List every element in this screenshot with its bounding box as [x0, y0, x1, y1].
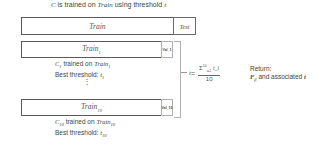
fold-10-val-label: Val_10: [162, 106, 173, 110]
title-text-2: using threshold: [113, 1, 164, 8]
test-label: Test: [179, 23, 189, 30]
test-block: Test: [173, 17, 196, 35]
fold-10-trained-line: C10 trained on Train10: [55, 118, 115, 129]
fold-10-train-block: Train10: [21, 99, 162, 116]
formula-equals: =: [191, 70, 195, 77]
return-label: Return:: [250, 65, 306, 73]
fold-1-val-block: Val_1: [161, 41, 173, 58]
folds-bracket: [174, 41, 181, 118]
formula-numerator: Σ10i=1 t_i: [198, 63, 220, 76]
title-threshold: t: [164, 1, 166, 9]
fold-1-train-label: Train1: [82, 44, 101, 55]
fold-1-trained-line: C1 trained on Train1: [55, 60, 110, 71]
fold-10-description: C10 trained on Train10 Best threshold: t…: [55, 118, 115, 141]
average-threshold-formula: t = Σ10i=1 t_i 10: [189, 63, 220, 83]
train-block: Train: [21, 17, 174, 35]
ellipsis-icon: ⋮: [83, 80, 91, 83]
train-label: Train: [89, 22, 105, 31]
return-value: Fβ and associated t: [250, 73, 306, 84]
title-text-1: is trained on: [56, 1, 98, 8]
fold-10-threshold-line: Best threshold: t10: [55, 129, 115, 140]
fold-1-val-label: Val_1: [163, 48, 172, 52]
fold-10-val-block: Val_10: [161, 99, 173, 116]
formula-denominator: 10: [206, 76, 213, 83]
fold-1-train-block: Train1: [21, 41, 162, 58]
title-train: Train: [98, 1, 113, 9]
diagram-title: C is trained on Train using threshold t: [21, 1, 196, 9]
fold-10-train-label: Train10: [81, 102, 102, 113]
return-statement: Return: Fβ and associated t: [250, 65, 306, 84]
formula-fraction: Σ10i=1 t_i 10: [198, 63, 220, 83]
bracket-connector: [181, 72, 187, 73]
